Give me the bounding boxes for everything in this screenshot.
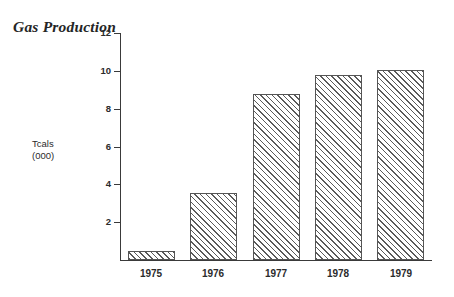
bar-chart-figure: Gas Production Tcals (000) 12108642 1975…: [0, 0, 454, 297]
bars-layer: [120, 33, 432, 260]
x-axis-label-1977: 1977: [245, 268, 307, 279]
bar-1975: [128, 251, 175, 260]
y-axis-tick-label: 4: [106, 178, 111, 189]
x-axis-label-1976: 1976: [182, 268, 244, 279]
y-axis-unit-caption: Tcals (000): [32, 138, 54, 161]
bar-1977: [253, 94, 300, 260]
y-axis-tick-label: 10: [100, 65, 111, 76]
bar-1978: [315, 75, 362, 260]
y-axis-unit-line-2: (000): [32, 150, 54, 162]
x-axis-line: [120, 260, 432, 261]
y-axis-tick-label: 12: [100, 27, 111, 38]
x-axis-label-1978: 1978: [307, 268, 369, 279]
y-axis-unit-line-1: Tcals: [32, 138, 54, 150]
y-axis-tick-label: 8: [106, 103, 111, 114]
bar-1976: [190, 193, 237, 260]
y-axis-tick-label: 6: [106, 141, 111, 152]
x-axis-label-1975: 1975: [120, 268, 182, 279]
bar-1979: [377, 70, 424, 260]
y-axis-tick-label: 2: [106, 216, 111, 227]
x-axis-label-1979: 1979: [370, 268, 432, 279]
